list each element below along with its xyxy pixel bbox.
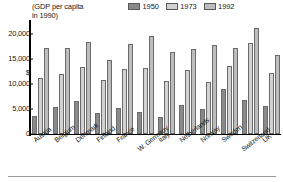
legend-entry-1973: 1973 — [166, 3, 197, 11]
bar-1973 — [122, 69, 127, 134]
bar-group-uk — [263, 22, 280, 134]
bar-1950 — [32, 116, 37, 134]
bar-1973 — [185, 70, 190, 134]
bar-group-belgium — [53, 22, 70, 134]
bar-group-france — [116, 22, 133, 134]
bar-group-denmark — [74, 22, 91, 134]
bar-1992 — [212, 45, 217, 134]
bar-1950 — [116, 108, 121, 134]
bar-group-netherlands — [179, 22, 196, 134]
bar-1992 — [233, 48, 238, 134]
bar-group-sweden — [221, 22, 238, 134]
legend-label-1973: 1973 — [180, 3, 196, 11]
bar-group-finland — [95, 22, 112, 134]
bar-1950 — [137, 112, 142, 134]
bar-1973 — [269, 73, 274, 134]
legend-entry-1992: 1992 — [204, 3, 235, 11]
bar-group-switzerland — [242, 22, 259, 134]
bar-1992 — [128, 44, 133, 134]
bar-1973 — [206, 82, 211, 134]
bar-1950 — [53, 107, 58, 134]
bottom-divider — [8, 176, 276, 177]
bar-1992 — [149, 36, 154, 134]
gdp-per-capita-bar-chart: (GDP per capita in 1990) 195019731992 20… — [0, 0, 283, 182]
bar-1973 — [227, 66, 232, 134]
bar-1992 — [170, 52, 175, 134]
bar-1992 — [275, 55, 280, 134]
y-tick-label: 15,000 — [0, 56, 30, 64]
legend-label-1992: 1992 — [218, 3, 234, 11]
legend-swatch-1973 — [166, 3, 178, 10]
bar-groups — [31, 22, 281, 134]
y-tick-label: 0 — [0, 130, 30, 138]
caption-line-1: (GDP per capita — [32, 2, 112, 11]
bar-1950 — [179, 105, 184, 134]
chart-legend: 195019731992 — [128, 3, 234, 11]
caption-line-2: in 1990) — [32, 11, 112, 20]
bar-1992 — [86, 42, 91, 134]
y-tick-label: 20,000 — [0, 31, 30, 39]
bar-1950 — [221, 89, 226, 134]
y-tick-label: 5,000 — [0, 105, 30, 113]
x-axis-category-labels: AustriaBelgiumDenmarkFinlandFranceW. Ger… — [31, 136, 281, 180]
bar-1992 — [254, 28, 259, 134]
legend-swatch-1992 — [204, 3, 216, 10]
bar-1992 — [44, 48, 49, 134]
bar-group-w-germany — [137, 22, 154, 134]
bar-1973 — [143, 68, 148, 134]
bar-1992 — [191, 49, 196, 134]
bar-1992 — [107, 60, 112, 134]
bar-1973 — [101, 80, 106, 134]
bar-1973 — [248, 43, 253, 134]
legend-label-1950: 1950 — [143, 3, 159, 11]
bar-1992 — [65, 48, 70, 134]
y-tick-label: 10,000 — [0, 80, 30, 88]
bar-1973 — [59, 74, 64, 134]
bar-1973 — [80, 67, 85, 134]
legend-swatch-1950 — [128, 3, 140, 10]
bar-group-austria — [32, 22, 49, 134]
legend-entry-1950: 1950 — [128, 3, 159, 11]
chart-caption: (GDP per capita in 1990) — [32, 2, 112, 20]
bar-1973 — [38, 78, 43, 134]
bar-group-italy — [158, 22, 175, 134]
y-axis-unit-label: $ — [0, 67, 30, 76]
